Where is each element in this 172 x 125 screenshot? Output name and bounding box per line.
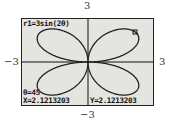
graph-plot [22, 19, 154, 106]
equation-label: r1=3sin(2θ) [23, 20, 69, 28]
xmin-label: −3 [4, 57, 19, 67]
calculator-screen: r1=3sin(2θ) θ=45 X=2.1213203 Y=2.1213203 [21, 18, 154, 106]
y-readout: Y=2.1213203 [90, 97, 136, 105]
ymin-label: −3 [80, 110, 95, 120]
xmax-label: 3 [159, 57, 165, 67]
x-readout: X=2.1213203 [23, 97, 69, 105]
ymax-label: 3 [84, 1, 90, 11]
